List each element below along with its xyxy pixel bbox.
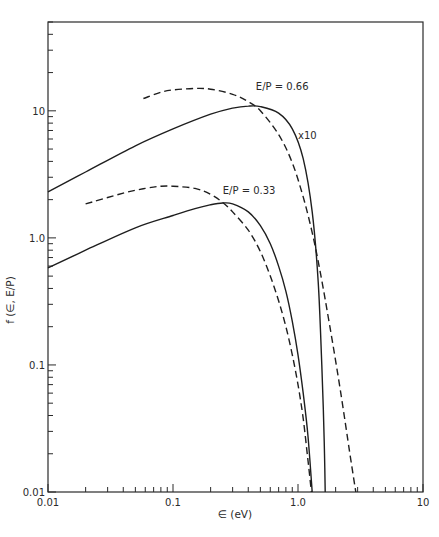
y-tick-label: 1.0 [29,233,45,244]
y-tick-label: 10 [32,106,45,117]
y-tick-label: 0.1 [29,360,45,371]
x-tick-label: 0.1 [165,497,181,508]
series-line-4-dashed [86,186,312,492]
x-tick-label: 0.01 [37,497,59,508]
x-axis-title: ∈ (eV) [218,508,252,520]
x-tick-label: 10 [417,497,430,508]
annotation-ep-033: E/P = 0.33 [223,185,276,196]
y-axis-tick-labels: 0.01 0.1 1.0 10 [23,106,45,498]
y-axis-ticks [48,22,56,492]
x-axis-ticks [48,484,423,492]
x-tick-label: 1.0 [290,497,306,508]
series-group [48,88,356,492]
annotation-ep-066: E/P = 0.66 [256,81,309,92]
annotations: E/P = 0.66 x10 E/P = 0.33 [223,81,317,196]
y-tick-label: 0.01 [23,487,45,498]
x-axis-tick-labels: 0.01 0.1 1.0 10 [37,497,430,508]
series-line-1-solid [48,106,325,492]
annotation-x10: x10 [298,130,317,141]
series-line-3-solid [48,203,312,492]
plot-frame [48,22,423,492]
y-axis-title: f (∈, E/P) [4,276,16,324]
chart: 0.01 0.1 1.0 10 0.01 0.1 1.0 10 ∈ (eV) f… [0,0,439,537]
